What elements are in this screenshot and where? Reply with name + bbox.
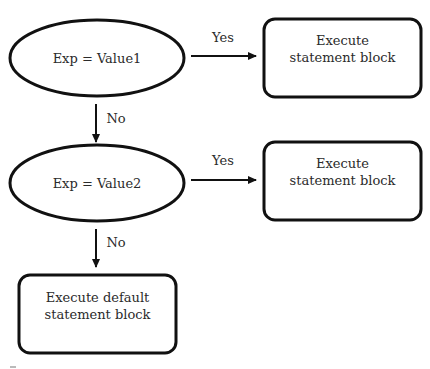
edge-label-d2-yes: Yes	[205, 153, 241, 169]
decision1-text: Exp = Value1	[53, 50, 142, 67]
action2-line1: Execute	[316, 155, 369, 172]
action2-label: Execute statement block	[264, 142, 421, 202]
edge-label-d1-yes: Yes	[205, 30, 241, 46]
edge-label-d1-no: No	[104, 111, 128, 127]
default-label: Execute default statement block	[19, 275, 176, 337]
action1-label: Execute statement block	[264, 19, 421, 79]
edge-label-d2-no: No	[104, 235, 128, 251]
decision1-label: Exp = Value1	[10, 20, 184, 96]
decision2-label: Exp = Value2	[10, 145, 184, 221]
action1-line2: statement block	[290, 49, 396, 66]
default-line1: Execute default	[46, 289, 150, 306]
decision2-text: Exp = Value2	[53, 175, 142, 192]
default-line2: statement block	[45, 306, 151, 323]
action1-line1: Execute	[316, 32, 369, 49]
action2-line2: statement block	[290, 172, 396, 189]
